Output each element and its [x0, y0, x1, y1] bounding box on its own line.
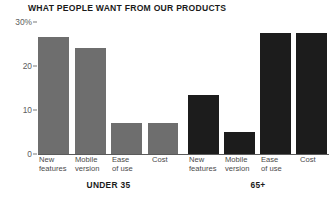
y-tick-label-20: 20 [23, 61, 32, 71]
y-tick-mark-20 [33, 66, 37, 67]
bar-65plus-mobile-version [224, 132, 255, 154]
cat-label-under35-ease-of-use: Ease of use [112, 156, 133, 173]
bar-under35-new-features [38, 37, 69, 154]
y-tick-mark-10 [33, 110, 37, 111]
y-tick-label-10: 10 [23, 105, 32, 115]
cat-label-65plus-new-features: New features [189, 156, 216, 173]
cat-label-under35-new-features: New features [39, 156, 66, 173]
cat-label-65plus-mobile-version: Mobile version [225, 156, 249, 173]
y-axis: 30% 20 10 0 [0, 0, 32, 203]
bar-65plus-cost [296, 33, 327, 154]
bar-under35-ease-of-use [111, 123, 142, 154]
bar-under35-mobile-version [75, 48, 106, 154]
plot-area [38, 22, 328, 154]
bar-under35-cost [148, 123, 178, 154]
y-tick-label-30: 30% [15, 17, 32, 27]
chart-title: WHAT PEOPLE WANT FROM OUR PRODUCTS [28, 3, 226, 13]
cat-label-under35-mobile-version: Mobile version [75, 156, 99, 173]
group-label-65plus: 65+ [188, 180, 328, 190]
bar-65plus-ease-of-use [260, 33, 291, 154]
y-tick-label-0: 0 [27, 149, 32, 159]
bar-65plus-new-features [188, 95, 219, 154]
cat-label-65plus-ease-of-use: Ease of use [261, 156, 282, 173]
cat-label-65plus-cost: Cost [300, 156, 316, 165]
group-label-under35: UNDER 35 [38, 180, 179, 190]
bar-chart: WHAT PEOPLE WANT FROM OUR PRODUCTS 30% 2… [0, 0, 336, 203]
y-tick-mark-0 [33, 154, 37, 155]
y-tick-mark-30 [33, 22, 37, 23]
cat-label-under35-cost: Cost [152, 156, 168, 165]
